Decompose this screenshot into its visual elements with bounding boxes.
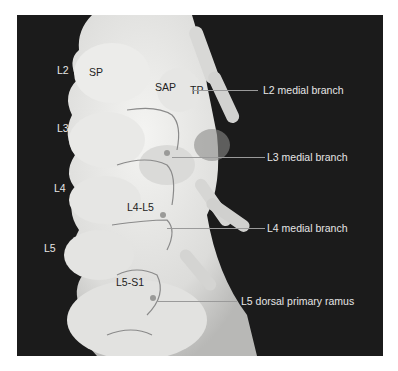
leader-line-l3	[172, 157, 265, 158]
nerve-label-l3-medial-branch: L3 medial branch	[267, 152, 348, 163]
level-label-l2: L2	[57, 65, 69, 76]
label-l4-l5: L4-L5	[127, 202, 154, 213]
nerve-label-l5-dorsal-primary-ramus: L5 dorsal primary ramus	[241, 296, 354, 307]
level-label-l5: L5	[44, 243, 56, 254]
label-l5-s1: L5-S1	[116, 277, 144, 288]
nerve-label-l4-medial-branch: L4 medial branch	[267, 223, 348, 234]
leader-line-l5	[157, 301, 237, 302]
spine-photo: L2 L3 L4 L5 SP SAP TP L4-L5 L5-S1 L2 med…	[17, 15, 383, 356]
leader-line-l2	[192, 90, 258, 91]
label-sap: SAP	[155, 82, 176, 93]
label-sp: SP	[89, 67, 103, 78]
level-label-l4: L4	[54, 183, 66, 194]
level-label-l3: L3	[57, 123, 69, 134]
nerve-label-l2-medial-branch: L2 medial branch	[263, 85, 344, 96]
leader-line-l4	[167, 228, 265, 229]
